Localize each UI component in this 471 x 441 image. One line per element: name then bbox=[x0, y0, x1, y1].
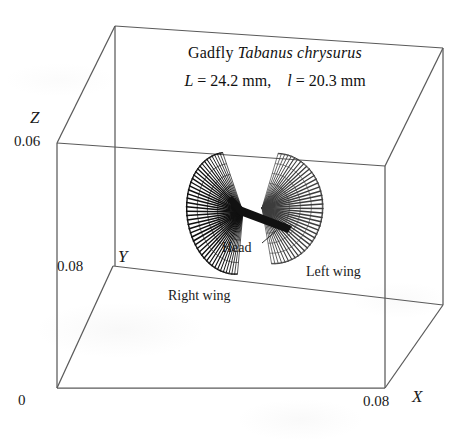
z-axis-max-tick: 0.06 bbox=[14, 133, 40, 150]
x-axis-label: X bbox=[412, 387, 422, 407]
figure-title: Gadfly Tabanus chrysurus L = 24.2 mm, l … bbox=[150, 44, 400, 90]
left-wing-stroke-fan bbox=[262, 153, 323, 263]
title-common-name: Gadfly bbox=[188, 44, 234, 61]
x-axis-max-tick: 0.08 bbox=[363, 393, 389, 410]
body-length-symbol: L bbox=[184, 72, 193, 89]
y-axis-label: Y bbox=[118, 247, 127, 267]
wing-length-symbol: l bbox=[287, 72, 291, 89]
head-annotation: Head bbox=[222, 240, 252, 256]
z-axis-label: Z bbox=[30, 108, 39, 128]
title-species-name: Tabanus chrysurus bbox=[238, 44, 362, 61]
figure-title-line-1: Gadfly Tabanus chrysurus bbox=[150, 44, 400, 62]
right-wing-annotation: Right wing bbox=[168, 288, 231, 304]
body-length-value: = 24.2 mm, bbox=[197, 72, 271, 89]
left-wing-annotation: Left wing bbox=[306, 264, 361, 280]
figure-title-line-2: L = 24.2 mm, l = 20.3 mm bbox=[150, 72, 400, 90]
wing-length-value: = 20.3 mm bbox=[296, 72, 366, 89]
y-axis-max-tick: 0.08 bbox=[57, 258, 83, 275]
origin-tick: 0 bbox=[18, 392, 26, 409]
right-wing-stroke-fan bbox=[187, 153, 244, 275]
